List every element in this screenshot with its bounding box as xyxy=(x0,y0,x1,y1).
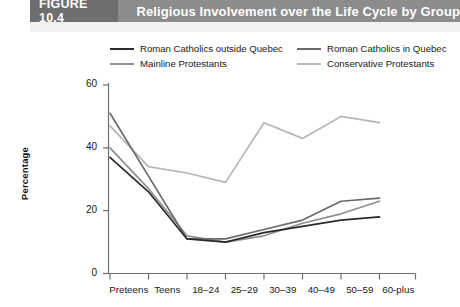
x-tick-label: 25–29 xyxy=(231,284,258,295)
figure-container: FIGURE 10.4 Religious Involvement over t… xyxy=(0,0,460,307)
x-tick-label: 40–49 xyxy=(308,284,335,295)
y-tick-label: 60 xyxy=(71,78,97,89)
x-tick-label: 30–39 xyxy=(269,284,296,295)
plot-area: Percentage 0204060 PreteensTeens18–2425–… xyxy=(0,0,460,307)
y-tick-label: 0 xyxy=(71,267,97,278)
x-tick-label: 60-plus xyxy=(382,284,414,295)
y-tick-label: 40 xyxy=(71,141,97,152)
x-tick-label: 50–59 xyxy=(346,284,373,295)
x-tick-label: 18–24 xyxy=(192,284,219,295)
y-tick-label: 20 xyxy=(71,204,97,215)
x-tick-label: Teens xyxy=(154,284,180,295)
x-tick-label: Preteens xyxy=(109,284,148,295)
line-chart-svg xyxy=(0,0,460,307)
